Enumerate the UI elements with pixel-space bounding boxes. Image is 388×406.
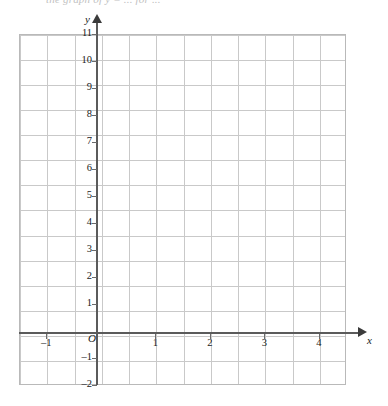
y-tick-mark xyxy=(92,250,97,251)
y-axis-line xyxy=(96,22,98,385)
y-tick-label: 6 xyxy=(70,162,92,173)
x-axis-arrow-icon xyxy=(358,327,367,337)
y-tick-label: –1 xyxy=(70,351,92,362)
y-tick-label: –2 xyxy=(70,378,92,389)
y-axis-label: y xyxy=(85,13,90,25)
y-tick-mark xyxy=(92,88,97,89)
graph-figure: the graph of y = ... for ... y x O 11109… xyxy=(0,0,388,406)
y-tick-label: 1 xyxy=(70,297,92,308)
x-tick-mark xyxy=(155,334,156,339)
y-tick-mark xyxy=(92,34,97,35)
y-tick-label: 8 xyxy=(70,108,92,119)
y-tick-mark xyxy=(92,196,97,197)
y-tick-mark xyxy=(92,385,97,386)
y-tick-label: 11 xyxy=(70,27,92,38)
x-axis-line xyxy=(19,332,361,334)
y-tick-mark xyxy=(92,61,97,62)
x-tick-mark xyxy=(210,334,211,339)
y-axis-arrow-icon xyxy=(92,14,102,23)
x-tick-mark xyxy=(264,334,265,339)
y-tick-label: 10 xyxy=(70,54,92,65)
x-axis-label: x xyxy=(367,334,372,346)
y-tick-label: 9 xyxy=(70,81,92,92)
y-tick-mark xyxy=(92,115,97,116)
caption-remnant-text: the graph of y = ... for ... xyxy=(46,0,286,5)
y-tick-label: 5 xyxy=(70,189,92,200)
y-tick-mark xyxy=(92,277,97,278)
x-tick-mark xyxy=(319,334,320,339)
origin-label: O xyxy=(74,332,96,344)
y-tick-label: 2 xyxy=(70,270,92,281)
y-tick-mark xyxy=(92,358,97,359)
y-tick-mark xyxy=(92,304,97,305)
y-tick-mark xyxy=(92,223,97,224)
x-tick-mark xyxy=(46,334,47,339)
y-tick-label: 3 xyxy=(70,243,92,254)
y-tick-mark xyxy=(92,142,97,143)
y-tick-label: 4 xyxy=(70,216,92,227)
y-tick-label: 7 xyxy=(70,135,92,146)
y-tick-mark xyxy=(92,169,97,170)
